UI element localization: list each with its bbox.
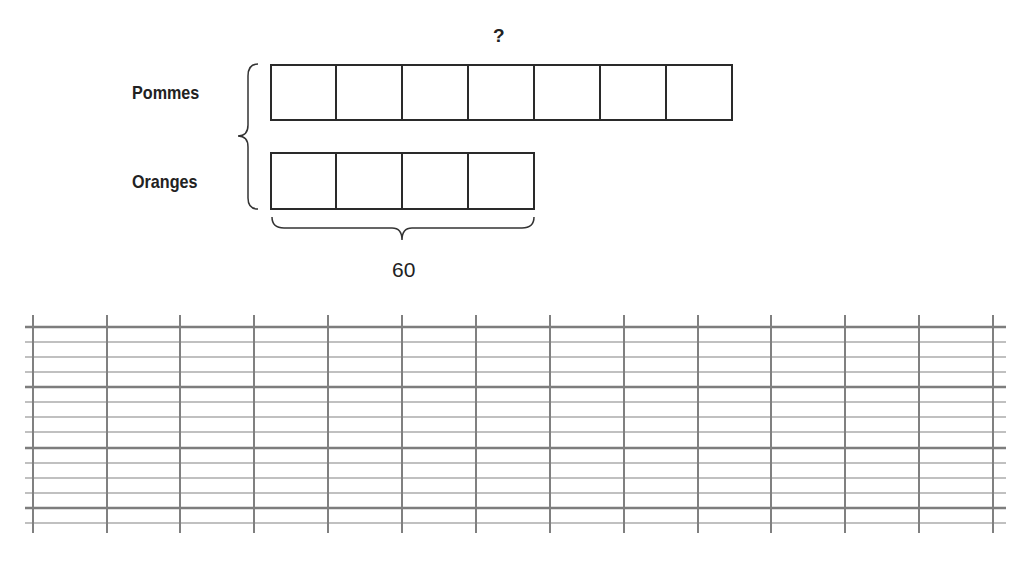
writing-grid xyxy=(0,0,1027,563)
